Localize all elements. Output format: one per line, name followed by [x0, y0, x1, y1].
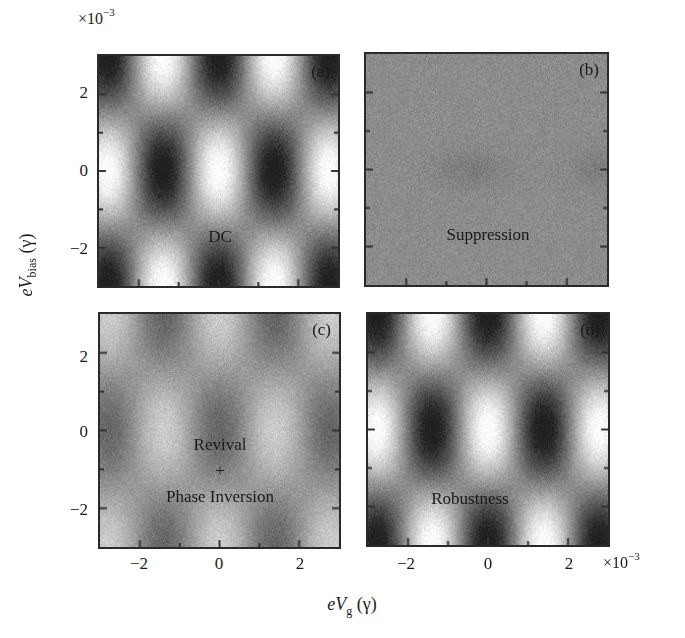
panel-c-canvas	[100, 314, 339, 547]
ytick-label-bottom-minus2: −2	[58, 500, 88, 520]
panel-c-label-line-2: +	[166, 458, 274, 484]
panel-b-label: Suppression	[446, 222, 529, 248]
panel-d-heatmap: (d) Robustness	[366, 312, 610, 547]
panel-a-canvas	[99, 56, 338, 286]
panel-d-label-line: Robustness	[431, 486, 508, 512]
y-exponent-power: −3	[103, 6, 115, 18]
x-axis-title-unit: (γ)	[352, 594, 376, 614]
panel-b-label-line: Suppression	[446, 222, 529, 248]
xtick-label-right-minus2: −2	[397, 554, 415, 574]
panel-b-tag: (b)	[579, 60, 599, 80]
y-axis-title-sub: bias	[25, 258, 39, 277]
panel-c-label-line-3: Phase Inversion	[166, 484, 274, 510]
x-axis-title: eVg (γ)	[327, 594, 376, 619]
xtick-label-right-0: 0	[484, 554, 493, 574]
ytick-label-top-minus2: −2	[58, 239, 88, 259]
xtick-label-left-2: 2	[296, 554, 305, 574]
x-exponent-base: ×10	[603, 554, 628, 571]
panel-d-label: Robustness	[431, 486, 508, 512]
xtick-label-right-2: 2	[565, 554, 574, 574]
ytick-label-top-0: 0	[58, 161, 88, 181]
xtick-label-left-minus2: −2	[130, 554, 148, 574]
y-axis-title-unit: (γ)	[16, 234, 36, 258]
ytick-label-top-2: 2	[58, 83, 88, 103]
panel-a-label-line: DC	[208, 224, 232, 250]
panel-a-label: DC	[208, 224, 232, 250]
ytick-label-bottom-0: 0	[58, 422, 88, 442]
panel-a-tag: (a)	[311, 62, 330, 82]
panel-c-tag: (c)	[312, 320, 331, 340]
x-exponent-power: −3	[628, 550, 640, 562]
panel-c-heatmap: (c) Revival + Phase Inversion	[98, 312, 341, 549]
panel-b-canvas	[366, 54, 607, 285]
x-axis-exponent: ×10−3	[603, 552, 640, 572]
panel-a-heatmap: (a) DC	[97, 54, 340, 288]
y-axis-title: eVbias (γ)	[16, 234, 41, 297]
panel-c-label: Revival + Phase Inversion	[166, 432, 274, 510]
y-exponent-base: ×10	[78, 10, 103, 27]
ytick-label-bottom-2: 2	[58, 347, 88, 367]
panel-d-tag: (d)	[580, 320, 600, 340]
xtick-label-left-0: 0	[215, 554, 224, 574]
x-axis-title-var: eV	[327, 594, 346, 614]
panel-b-heatmap: (b) Suppression	[364, 52, 609, 287]
y-axis-title-var: eV	[16, 277, 36, 296]
panel-c-label-line-1: Revival	[166, 432, 274, 458]
y-axis-exponent: ×10−3	[78, 8, 115, 28]
